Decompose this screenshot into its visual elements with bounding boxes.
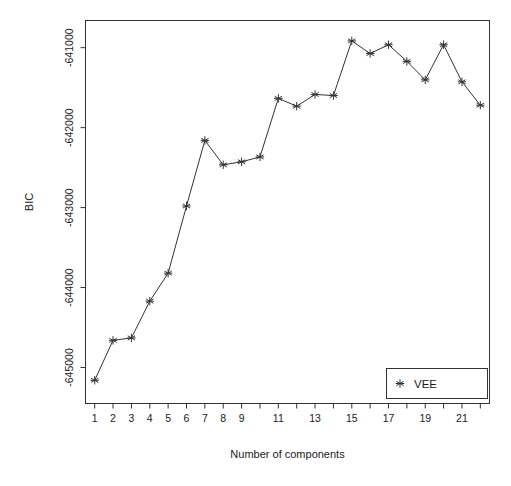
x-tick-label: 17	[383, 412, 395, 424]
data-point-marker	[164, 269, 172, 277]
x-tick-label: 13	[309, 412, 321, 424]
data-point-marker	[256, 153, 264, 161]
x-tick-label: 15	[346, 412, 358, 424]
y-tick-label: -642000	[63, 108, 75, 147]
data-point-marker	[201, 136, 209, 144]
x-tick-label: 4	[147, 412, 153, 424]
x-axis-ticks	[95, 404, 481, 409]
y-tick-label: -641000	[63, 28, 75, 67]
x-axis-tick-labels: 123456789111315171921	[92, 412, 468, 424]
data-point-marker	[439, 41, 447, 49]
x-tick-label: 21	[456, 412, 468, 424]
x-tick-label: 7	[202, 412, 208, 424]
data-point-marker	[366, 49, 374, 57]
data-point-marker	[329, 91, 337, 99]
x-tick-label: 5	[165, 412, 171, 424]
x-tick-label: 19	[419, 412, 431, 424]
bic-line-chart-figure: -641000-642000-643000-644000-645000 1234…	[0, 0, 511, 486]
x-tick-label: 6	[184, 412, 190, 424]
y-axis-tick-labels: -641000-642000-643000-644000-645000	[63, 28, 75, 387]
chart-canvas: -641000-642000-643000-644000-645000 1234…	[0, 0, 511, 486]
data-point-marker	[458, 78, 466, 86]
y-tick-label: -643000	[63, 188, 75, 227]
y-axis-ticks	[81, 48, 86, 368]
x-tick-label: 3	[128, 412, 134, 424]
legend-label: VEE	[414, 378, 437, 390]
data-point-marker	[348, 37, 356, 45]
x-tick-label: 11	[273, 412, 284, 424]
data-point-marker	[237, 158, 245, 166]
y-tick-label: -644000	[63, 268, 75, 307]
x-axis-title: Number of components	[85, 448, 490, 460]
y-axis-title: BIC	[23, 172, 35, 232]
chart-legend[interactable]: VEE	[387, 369, 488, 399]
y-tick-label: -645000	[63, 348, 75, 387]
data-point-marker	[311, 90, 319, 98]
series-data-markers	[90, 37, 484, 385]
data-point-marker	[109, 336, 117, 344]
data-point-marker	[90, 376, 98, 384]
data-point-marker	[127, 334, 135, 342]
data-point-marker	[182, 202, 190, 210]
series-line-VEE	[95, 41, 481, 380]
x-tick-label: 2	[110, 412, 116, 424]
series-line-paths	[95, 41, 481, 380]
x-tick-label: 8	[220, 412, 226, 424]
data-point-marker	[274, 94, 282, 102]
x-tick-label: 1	[92, 412, 98, 424]
data-point-marker	[476, 101, 484, 109]
data-point-marker	[292, 102, 300, 110]
x-tick-label: 9	[239, 412, 245, 424]
data-point-marker	[146, 297, 154, 305]
data-point-marker	[219, 161, 227, 169]
